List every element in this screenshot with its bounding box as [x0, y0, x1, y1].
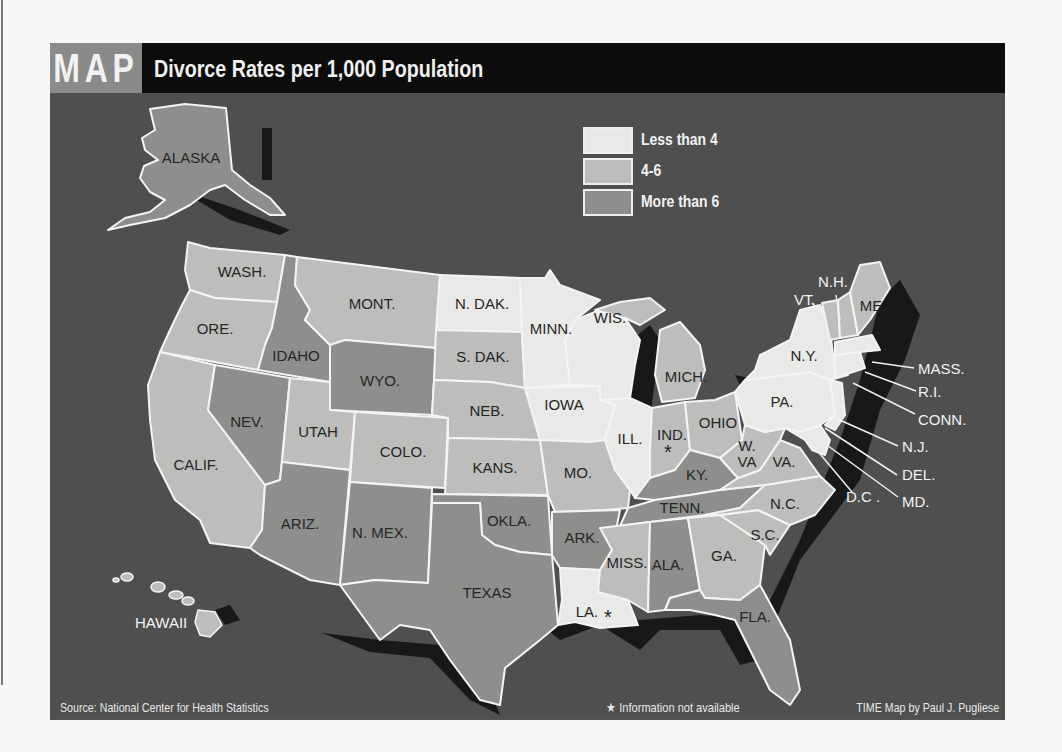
svg-text:PA.: PA.	[770, 393, 793, 410]
state-conn-ri[interactable]	[835, 352, 865, 378]
svg-text:CALIF.: CALIF.	[173, 456, 218, 473]
svg-text:LA.: LA.	[576, 603, 599, 620]
svg-text:HAWAII: HAWAII	[135, 614, 187, 631]
svg-text:OHIO: OHIO	[699, 414, 737, 431]
svg-text:WASH.: WASH.	[218, 263, 267, 280]
svg-text:N.H.: N.H.	[818, 273, 848, 290]
us-map: ALASKA HAWAII WASH. ORE. CALIF. IDAHO NE…	[50, 43, 1005, 719]
svg-text:WIS.: WIS.	[594, 309, 627, 326]
legend-label: Less than 4	[641, 130, 718, 150]
na-footnote-text: Information not available	[619, 700, 739, 715]
svg-text:IDAHO: IDAHO	[272, 347, 320, 364]
svg-text:FLA.: FLA.	[739, 608, 771, 625]
svg-text:VT.: VT.	[794, 291, 816, 308]
svg-text:N.C.: N.C.	[770, 495, 800, 512]
svg-text:GA.: GA.	[711, 547, 737, 564]
svg-text:DEL.: DEL.	[902, 466, 935, 483]
svg-text:W.: W.	[738, 437, 756, 454]
legend-item-more-than-6: More than 6	[583, 188, 736, 216]
svg-text:NEB.: NEB.	[469, 402, 504, 419]
svg-text:OKLA.: OKLA.	[487, 512, 531, 529]
svg-text:NEV.: NEV.	[230, 413, 264, 430]
svg-text:IND.: IND.	[657, 426, 687, 443]
svg-text:KY.: KY.	[686, 466, 708, 483]
svg-text:MISS.: MISS.	[607, 554, 648, 571]
legend-swatch	[583, 189, 633, 216]
svg-text:MO.: MO.	[564, 464, 592, 481]
svg-text:ME.: ME.	[860, 297, 887, 314]
na-marker-ind: *	[664, 441, 672, 463]
legend-swatch	[583, 127, 633, 154]
svg-text:VA.: VA.	[772, 453, 795, 470]
svg-text:TEXAS: TEXAS	[462, 584, 511, 601]
svg-text:ALASKA: ALASKA	[162, 149, 220, 166]
svg-text:ILL.: ILL.	[617, 430, 642, 447]
svg-text:TENN.: TENN.	[660, 499, 705, 516]
svg-text:CONN.: CONN.	[918, 411, 966, 428]
svg-text:ORE.: ORE.	[197, 320, 234, 337]
source-note: Source: National Center for Health Stati…	[60, 700, 269, 715]
svg-text:S. DAK.: S. DAK.	[456, 348, 509, 365]
svg-text:ARK.: ARK.	[564, 529, 599, 546]
svg-text:UTAH: UTAH	[298, 423, 338, 440]
svg-text:S.C.: S.C.	[750, 526, 779, 543]
svg-text:COLO.: COLO.	[380, 443, 427, 460]
legend-label: 4-6	[641, 161, 661, 181]
map-title: Divorce Rates per 1,000 Population	[154, 43, 483, 93]
page-edge-line	[1, 0, 3, 685]
state-mich[interactable]	[655, 322, 705, 402]
svg-text:N. DAK.: N. DAK.	[455, 295, 509, 312]
svg-text:WYO.: WYO.	[360, 372, 400, 389]
svg-text:ARIZ.: ARIZ.	[281, 515, 319, 532]
map-frame: ALASKA HAWAII WASH. ORE. CALIF. IDAHO NE…	[50, 43, 1005, 720]
svg-text:N.J.: N.J.	[902, 438, 929, 455]
svg-text:N. MEX.: N. MEX.	[352, 524, 408, 541]
svg-text:MINN.: MINN.	[530, 320, 573, 337]
state-alaska[interactable]	[108, 104, 285, 230]
svg-text:N.Y.: N.Y.	[790, 347, 817, 364]
svg-text:KANS.: KANS.	[472, 459, 517, 476]
legend-swatch	[583, 158, 633, 185]
star-icon: ★	[606, 700, 616, 715]
na-marker-la: *	[604, 606, 612, 628]
svg-text:MONT.: MONT.	[349, 295, 396, 312]
svg-text:MICH.: MICH.	[665, 368, 708, 385]
map-badge: MAP	[50, 43, 142, 93]
svg-text:MASS.: MASS.	[918, 360, 965, 377]
svg-text:ALA.: ALA.	[652, 556, 685, 573]
na-footnote: ★ Information not available	[606, 700, 740, 715]
legend-label: More than 6	[641, 192, 719, 212]
legend: Less than 4 4-6 More than 6	[583, 126, 736, 219]
legend-item-less-than-4: Less than 4	[583, 126, 736, 154]
svg-text:VA: VA	[738, 453, 757, 470]
svg-text:D.C .: D.C .	[846, 488, 880, 505]
svg-text:MD.: MD.	[902, 493, 930, 510]
svg-text:R.I.: R.I.	[918, 383, 941, 400]
map-credit: TIME Map by Paul J. Pugliese	[856, 700, 999, 715]
svg-text:IOWA: IOWA	[544, 396, 583, 413]
header-bar: MAP Divorce Rates per 1,000 Population	[50, 43, 1005, 93]
legend-item-4-6: 4-6	[583, 157, 736, 185]
